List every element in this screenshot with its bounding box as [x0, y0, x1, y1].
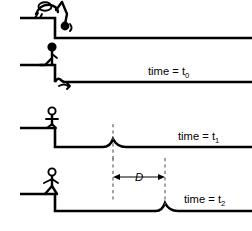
ledge-and-rope-path-1 [20, 18, 252, 38]
diagram-canvas: time = t0 time = t1 [0, 0, 252, 231]
rope-end-hand-1 [61, 22, 68, 29]
person-forearm-1 [62, 2, 67, 24]
wave-pulse-diagram: time = t0 time = t1 [0, 0, 252, 231]
panel-1 [20, 2, 252, 38]
person-head-4 [48, 168, 55, 175]
distance-arrow-left-icon [113, 174, 120, 180]
panel-2-time-label: time = t0 [148, 65, 189, 80]
person-head-2 [48, 43, 56, 51]
distance-arrow-right-icon [158, 174, 165, 180]
person-head-3 [48, 107, 55, 114]
motion-flick-1 [70, 24, 72, 31]
panel-2: time = t0 [20, 43, 252, 89]
panel-4: D time = t2 [20, 158, 252, 211]
panel-3-time-label: time = t1 [178, 130, 219, 145]
person-arm-1 [56, 2, 62, 10]
motion-flick-2 [59, 85, 68, 87]
panel-3: time = t1 [20, 107, 252, 160]
distance-label: D [135, 171, 143, 183]
ledge-and-rope-path-2 [20, 65, 252, 82]
panel-4-time-label: time = t2 [184, 193, 225, 208]
